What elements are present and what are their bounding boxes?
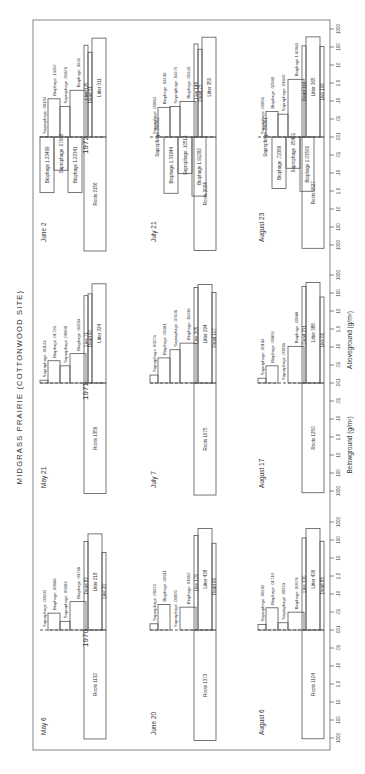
bar-label: Biophage .13267: [52, 63, 57, 95]
bar-label: Litter 294: [203, 324, 208, 343]
bar-label: Biophage .02611: [162, 569, 167, 601]
bar-label: Dead 107: [212, 327, 217, 347]
bar-biophage: [266, 366, 278, 383]
bar-label: Saprophage .00303: [63, 581, 68, 618]
axis-tick-label: 1000: [336, 23, 341, 34]
bar-label: Biophage .02481: [162, 323, 167, 355]
figure-title: MIDGRASS PRAIRIE (COTTONWOOD SITE): [15, 290, 24, 484]
aboveground-axis-label: Aboveground (g/m²): [346, 311, 354, 369]
bar-label: Dead 66: [212, 578, 217, 596]
date-label: June 2: [40, 222, 47, 242]
bar-label: Saprophage .00038: [281, 343, 286, 380]
axis-tick-label: 10: [336, 555, 341, 561]
axis-tick-label: 100: [336, 716, 341, 724]
year-label: 1971: [81, 382, 90, 400]
bar-label: Biophage 1.22341: [73, 146, 78, 183]
bar-saprophage: [170, 106, 180, 137]
bar-saprophage: [60, 621, 70, 630]
bar-biophage: [48, 99, 60, 137]
bar-label: Litter 324: [97, 324, 102, 343]
bar-biophage: [48, 361, 60, 383]
bar-label: Biophage .01859: [186, 572, 191, 604]
bar-biophage: [70, 354, 86, 383]
axis-tick-label: 10: [336, 206, 341, 212]
bar-label: Saprophage .07000: [59, 133, 64, 173]
bar-label: Litter 350: [207, 77, 212, 96]
bar-biophage: [48, 613, 60, 630]
date-label: August 17: [258, 458, 266, 488]
bar-label: Saprophage .00900: [63, 325, 68, 362]
bar-label: Litter 218: [93, 572, 98, 591]
bar-label: Dead 85: [320, 577, 325, 595]
date-label: July 21: [150, 221, 158, 242]
bar-saprophage: [278, 623, 288, 630]
bar-label: Litter 388: [311, 323, 316, 342]
bar-label: Roots 1104: [311, 673, 316, 696]
date-panel: June 2Saprophage .00104Biophage .13267Sa…: [40, 38, 106, 251]
bar-label: Saprophage .00253: [281, 582, 286, 619]
axis-tick-label: .01: [336, 361, 341, 368]
bar-label: Live 106: [320, 83, 325, 101]
axis-tick-label: 1.0: [336, 572, 341, 579]
axis-tick-label: .01: [336, 644, 341, 651]
axis-tick-label: .10: [336, 662, 341, 669]
bar-saprophage: [170, 350, 180, 383]
date-label: August 6: [258, 709, 266, 735]
date-panel: July 7Saprophage .00276Biophage .02481Sa…: [150, 285, 217, 495]
bar-label: Roots 1250: [311, 426, 316, 450]
axis-tick-label: 1.0: [336, 680, 341, 687]
bar-label: Saprophage .00276: [152, 335, 157, 372]
bar-saprophage: [60, 366, 70, 383]
axis-tick-label: .01: [336, 151, 341, 158]
date-panel: August 23Saprophage .00056Biophage .0258…: [258, 37, 325, 248]
bar-saprophage: [258, 378, 266, 383]
date-panel: May 6Saprophage .00100Biophage .00866Sap…: [40, 534, 107, 739]
bar-label: Biophage .00899: [270, 330, 275, 362]
bar-label: Biophage .03766: [76, 566, 81, 598]
bar-saprophage: [278, 114, 288, 137]
bar-label: Biophage .3941: [76, 57, 81, 87]
bar-label: Saprophage .00202: [260, 584, 265, 621]
bar-label: Biophage .72389: [277, 145, 282, 180]
bar-label: Saprophage .00095: [173, 590, 178, 627]
axis-tick-label: 1000: [336, 485, 341, 496]
axis-tick-label: 1.0: [336, 325, 341, 332]
axis-tick-label: 100: [336, 223, 341, 231]
bar-biophage: [158, 604, 170, 630]
bar-label: Biophage .16436: [186, 308, 191, 340]
bar-label: Saprophage .00184: [260, 338, 265, 375]
bar-label: Litter 311: [97, 78, 102, 97]
axis-tick-label: 100: [336, 536, 341, 544]
axis-tick-label: .10: [336, 590, 341, 597]
axis-tick-label: 1.0: [336, 433, 341, 440]
axis-tick-label: .001: [336, 378, 341, 387]
midgrass-prairie-figure: MIDGRASS PRAIRIE (COTTONWOOD SITE) 1970M…: [0, 0, 365, 774]
bar-label: Saprophage .00002: [155, 117, 160, 157]
axis-tick-label: 100: [336, 289, 341, 297]
axis-tick-label: 1.0: [336, 187, 341, 194]
bar-label: Biophage .00978: [294, 577, 299, 609]
axis-tick-label: 1000: [336, 239, 341, 250]
bar-label: Roots 2156: [93, 182, 98, 206]
bar-label: Biophage .01710: [270, 572, 275, 604]
bar-label: Saprophage .00221: [152, 583, 157, 620]
axis-tick-label: 1000: [336, 516, 341, 527]
bar-label: Litter 365: [311, 77, 316, 96]
bar-label: Saprophage .04979: [173, 66, 178, 103]
bar-label: Biophage .00866: [52, 578, 57, 610]
year-section-1970: 1970May 6Saprophage .00100Biophage .0086…: [40, 528, 325, 740]
date-panel: May 21Saprophage .00143Biophage .01726Sa…: [40, 284, 106, 494]
bar-saprophage: [258, 625, 266, 630]
bar-label: Live 20: [102, 584, 107, 599]
bar-label: Roots 1132: [93, 673, 98, 696]
axis-tick-label: .10: [336, 169, 341, 176]
bar-label: Biophage .10888: [294, 311, 299, 343]
bar-label: Biophage 1.23499: [45, 146, 50, 183]
years-layer: 1970May 6Saprophage .00100Biophage .0086…: [40, 37, 325, 741]
bar-biophage: [158, 358, 170, 383]
bar-label: Biophage 1.91292: [197, 148, 202, 185]
bar-biophage: [70, 602, 86, 630]
bar-label: Biophage .04430: [162, 72, 167, 104]
bar-label: Biophage 1.60044: [294, 42, 299, 77]
year-section-1971: 1971May 21Saprophage .00143Biophage .017…: [40, 282, 325, 495]
